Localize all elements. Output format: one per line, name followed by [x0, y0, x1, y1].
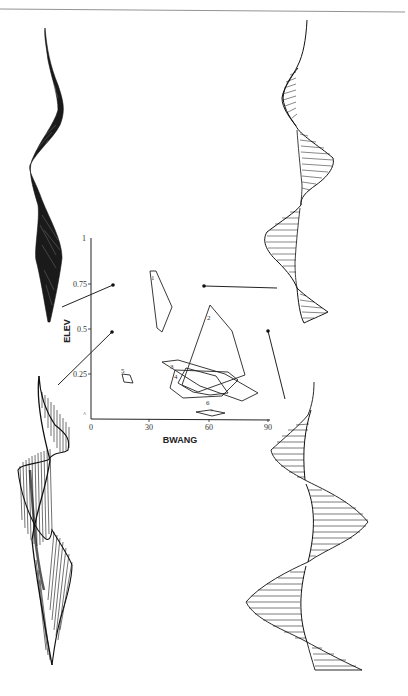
polygon-label-4: 4	[174, 373, 178, 381]
polygon-label-1: 1	[151, 274, 155, 282]
connector-top-left	[62, 285, 113, 307]
x-tick-30: 30	[145, 423, 153, 432]
x-axis-label: BWANG	[163, 435, 198, 445]
x-tick-60: 60	[205, 423, 213, 432]
marker-top-right	[202, 284, 206, 288]
central-plot: 1 0.75 0.5 0.25 ^ 0 30 60 90 BWANG ELEV …	[58, 234, 285, 445]
polygon-2	[182, 305, 245, 392]
y-axis-label: ELEV	[62, 319, 72, 343]
connector-bottom-right	[268, 331, 285, 399]
y-tick-0.75: 0.75	[73, 280, 87, 289]
polygon-label-6: 6	[206, 399, 210, 407]
panel-top-right-ribbon	[265, 20, 334, 323]
figure: 1 0.75 0.5 0.25 ^ 0 30 60 90 BWANG ELEV …	[0, 0, 408, 696]
marker-top-left	[111, 283, 115, 287]
x-tick-0: 0	[89, 423, 93, 432]
connector-top-right	[204, 286, 277, 288]
panel-bottom-left-ribbon	[18, 376, 72, 665]
origin-mark: ^	[83, 411, 86, 417]
x-axis	[91, 419, 270, 420]
polygon-label-5: 5	[121, 367, 125, 375]
marker-bottom-left	[110, 330, 114, 334]
marker-bottom-right	[266, 329, 270, 333]
y-tick-0.25: 0.25	[73, 370, 87, 379]
panel-top-left-ribbon	[30, 28, 64, 322]
polygon-label-2: 2	[207, 314, 211, 322]
top-rule	[0, 9, 405, 12]
y-tick-0.5: 0.5	[77, 325, 87, 334]
polygon-label-3: 3	[170, 363, 174, 371]
x-tick-90: 90	[264, 423, 272, 432]
polygon-5	[122, 374, 133, 383]
y-tick-1: 1	[82, 234, 86, 243]
